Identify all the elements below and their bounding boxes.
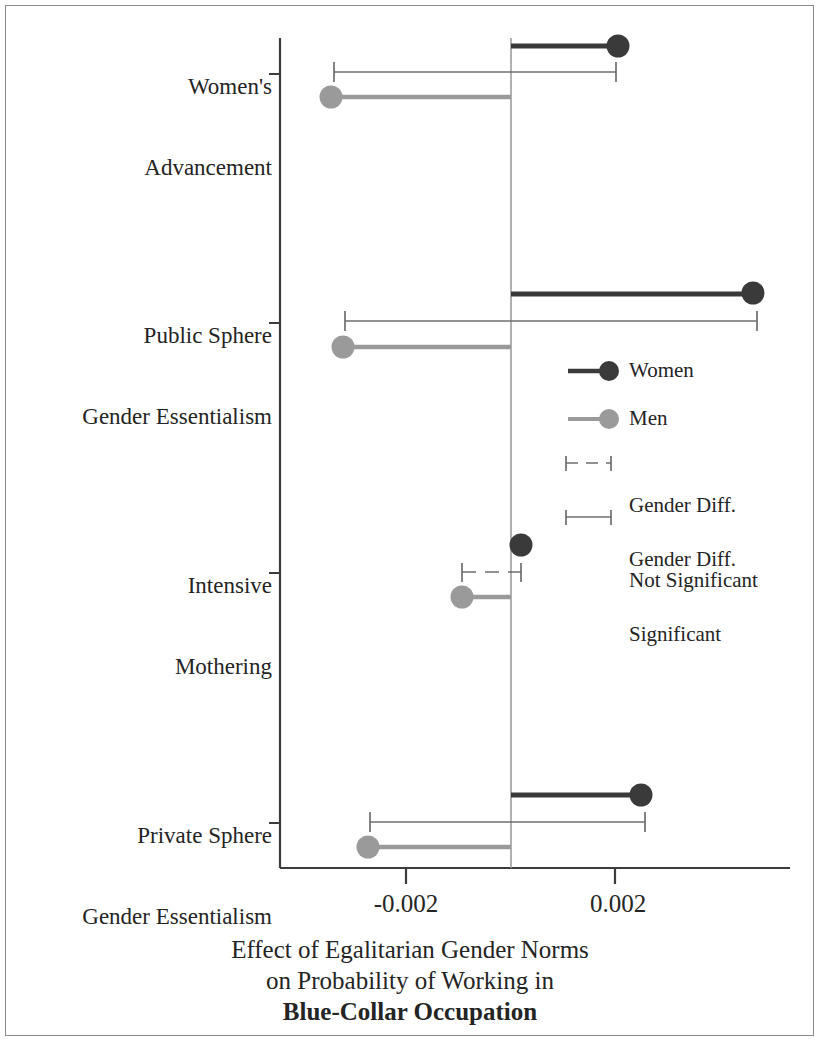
women-point bbox=[510, 534, 533, 557]
legend-marker-men bbox=[568, 409, 619, 429]
x-axis-title-line-2: on Probability of Working in bbox=[0, 965, 820, 996]
gender-diff-bar-significant bbox=[370, 812, 645, 832]
legend-label-men: Men bbox=[629, 406, 668, 431]
group-private-sphere-gender-essentialism bbox=[357, 784, 653, 859]
y-label-line: Women's bbox=[12, 73, 272, 100]
legend-marker-women bbox=[568, 361, 619, 381]
x-tick-label-negative: -0.002 bbox=[336, 890, 476, 918]
y-label-line: Gender Essentialism bbox=[0, 403, 272, 430]
y-label-womens-advancement: Women's Advancement bbox=[12, 19, 272, 235]
group-public-sphere-gender-essentialism bbox=[332, 282, 765, 359]
y-label-line: Advancement bbox=[12, 154, 272, 181]
men-point bbox=[320, 86, 343, 109]
legend-label-line: Gender Diff. bbox=[629, 547, 736, 572]
men-point bbox=[451, 586, 474, 609]
y-label-public-sphere-gender-essentialism: Public Sphere Gender Essentialism bbox=[0, 268, 272, 484]
gender-diff-bar-significant bbox=[345, 311, 757, 331]
women-point bbox=[742, 282, 765, 305]
y-label-line: Gender Essentialism bbox=[0, 903, 272, 930]
men-point bbox=[357, 836, 380, 859]
y-label-line: Private Sphere bbox=[0, 822, 272, 849]
legend-marker-gender-diff-not-significant bbox=[566, 456, 611, 471]
y-label-line: Intensive bbox=[12, 572, 272, 599]
y-label-line: Public Sphere bbox=[0, 322, 272, 349]
y-label-line: Mothering bbox=[12, 653, 272, 680]
legend-label-line: Significant bbox=[629, 622, 736, 647]
x-axis-title-line-1: Effect of Egalitarian Gender Norms bbox=[0, 934, 820, 965]
gender-diff-bar-not-significant bbox=[462, 563, 521, 582]
x-axis-ticks bbox=[406, 868, 615, 884]
group-womens-advancement bbox=[320, 35, 630, 109]
legend-marker-gender-diff-significant bbox=[566, 510, 611, 525]
plot-area: Women's Advancement Public Sphere Gender… bbox=[0, 0, 820, 1041]
x-axis-title: Effect of Egalitarian Gender Norms on Pr… bbox=[0, 934, 820, 1027]
gender-diff-bar-significant bbox=[334, 62, 616, 82]
legend-label-women: Women bbox=[629, 358, 694, 383]
men-point bbox=[332, 336, 355, 359]
y-label-intensive-mothering: Intensive Mothering bbox=[12, 518, 272, 734]
group-intensive-mothering bbox=[451, 534, 533, 609]
women-point bbox=[630, 784, 653, 807]
x-tick-label-positive: 0.002 bbox=[548, 890, 688, 918]
legend-label-gender-diff-significant: Gender Diff. Significant bbox=[629, 497, 736, 697]
x-axis-title-line-3-bold: Blue-Collar Occupation bbox=[0, 996, 820, 1027]
figure-page: Women's Advancement Public Sphere Gender… bbox=[0, 0, 820, 1041]
women-point bbox=[607, 35, 630, 58]
